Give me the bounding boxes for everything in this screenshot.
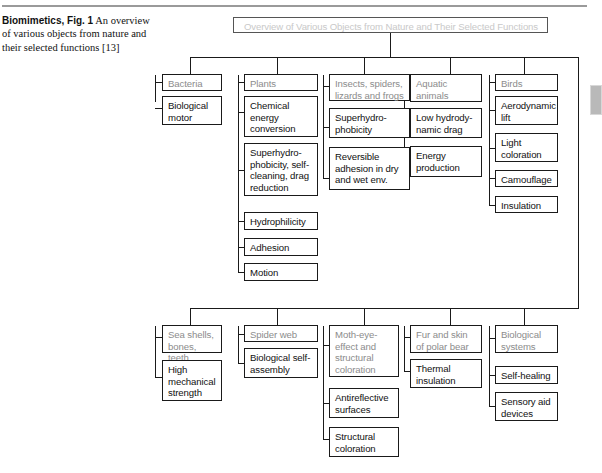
node-light-coloration: Light coloration xyxy=(495,133,558,162)
connector-drop-biosystems xyxy=(524,308,525,326)
column-header-birds: Birds xyxy=(495,74,558,91)
node-motion: Motion xyxy=(244,263,318,281)
connector-right-riser xyxy=(578,57,579,309)
node-superhydrophobicity: Superhydro-phobicity xyxy=(329,108,410,138)
spine-seashells xyxy=(155,326,156,378)
node-low-hydrodynamic-drag: Low hydrody-namic drag xyxy=(410,108,482,138)
node-thermal-insulation: Thermal insulation xyxy=(410,359,482,388)
node-self-healing: Self-healing xyxy=(495,366,558,384)
figure-page: Biomimetics, Fig. 1 An overview of vario… xyxy=(0,0,602,473)
biomimetics-tree-diagram: Overview of Various Objects from Nature … xyxy=(0,0,602,473)
connector-lower-bus xyxy=(190,308,579,309)
node-aerodynamic-lift: Aerodynamic lift xyxy=(495,96,558,125)
node-structural-coloration: Structural coloration xyxy=(329,427,399,457)
connector-drop-seashells xyxy=(190,308,191,326)
node-energy-production: Energy production xyxy=(410,146,482,177)
node-high-mechanical-strength: High mechanical strength xyxy=(162,360,222,401)
column-header-fur-and-skin: Fur and skin of polar bear xyxy=(410,325,482,353)
column-header-sea-shells: Sea shells, bones, teeth xyxy=(162,325,222,353)
connector-drop-motheye xyxy=(364,308,365,326)
node-chemical-energy-conversion: Chemical energy conversion xyxy=(244,96,318,137)
spine-polarbear xyxy=(404,326,405,372)
column-header-moth-eye-effect: Moth-eye-effect and structural coloratio… xyxy=(329,325,399,377)
spine-spiderweb xyxy=(238,326,239,364)
node-camouflage: Camouflage xyxy=(495,170,558,187)
spine-birds xyxy=(489,75,490,206)
node-adhesion: Adhesion xyxy=(244,238,318,256)
node-reversible-adhesion: Reversible adhesion in dry and wet env. xyxy=(329,147,410,190)
spine-plants xyxy=(238,75,239,272)
node-biological-self-assembly: Biological self-assembly xyxy=(244,348,318,378)
column-header-insects: Insects, spiders, lizards and frogs xyxy=(329,74,410,101)
connector-drop-spiderweb xyxy=(277,308,278,326)
connector-drop-bacteria xyxy=(190,57,191,75)
spine-motheye xyxy=(323,326,324,440)
node-superhydrophobicity-self-cleaning: Superhydro-phobicity, self-cleaning, dra… xyxy=(244,143,318,196)
node-antireflective-surfaces: Antireflective surfaces xyxy=(329,388,399,418)
column-header-bacteria: Bacteria xyxy=(162,74,222,91)
connector-upper-bus xyxy=(190,57,579,58)
connector-title-stem xyxy=(390,33,391,57)
diagram-title-box: Overview of Various Objects from Nature … xyxy=(233,17,548,33)
connector-drop-birds xyxy=(524,57,525,75)
column-header-aquatic-animals: Aquatic animals xyxy=(410,74,482,102)
connector-drop-insects xyxy=(364,57,365,75)
column-header-plants: Plants xyxy=(244,74,318,91)
node-hydrophilicity: Hydrophilicity xyxy=(244,212,318,230)
connector-drop-plants xyxy=(277,57,278,75)
node-sensory-aid-devices: Sensory aid devices xyxy=(495,392,558,421)
column-header-spider-web: Spider web xyxy=(244,325,318,342)
connector-drop-aquatic xyxy=(450,57,451,75)
connector-drop-polarbear xyxy=(450,308,451,326)
node-insulation: Insulation xyxy=(495,196,558,213)
column-header-biological-systems: Biological systems xyxy=(495,325,558,353)
spine-bacteria xyxy=(155,75,156,102)
node-biological-motor: Biological motor xyxy=(162,96,222,125)
